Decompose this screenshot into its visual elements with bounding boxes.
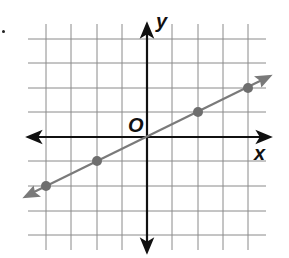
coordinate-graph bbox=[0, 0, 289, 258]
y-axis-label: y bbox=[156, 10, 167, 33]
axes bbox=[28, 24, 270, 252]
origin-label: O bbox=[128, 114, 144, 137]
x-axis-label: x bbox=[254, 142, 265, 165]
